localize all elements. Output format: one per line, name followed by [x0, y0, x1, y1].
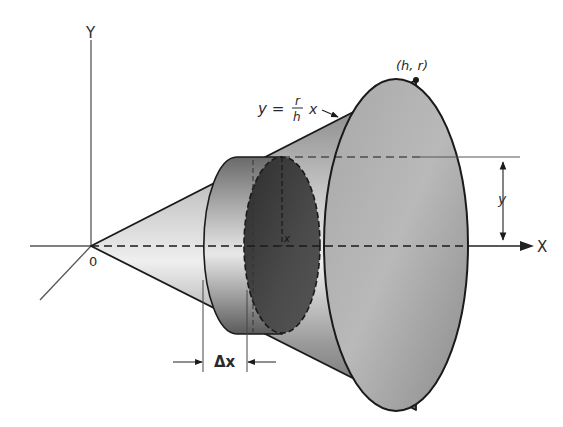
equation-variable: x [308, 101, 318, 117]
equation-denominator: h [293, 110, 301, 124]
equation-pointer [322, 110, 338, 117]
radius-label: y [497, 191, 507, 207]
vertex-point [413, 77, 419, 83]
equation-lhs: y = [257, 100, 284, 118]
z-axis-line [40, 246, 91, 300]
y-axis-label: Y [85, 24, 96, 42]
equation-numerator: r [295, 94, 301, 108]
slice-thickness-label: Δx [214, 353, 236, 371]
slice-position-label: x [283, 233, 290, 244]
vertex-point-label: (h, r) [396, 58, 428, 73]
cone-base [324, 79, 468, 411]
line-equation: y = r h x [257, 94, 318, 124]
x-axis-label: X [537, 238, 547, 256]
origin-label: 0 [89, 254, 97, 269]
x-axis-arrow-icon [520, 241, 534, 251]
cone-volume-diagram: Y X 0 (h, r) y = r h x y x Δx [0, 0, 563, 427]
